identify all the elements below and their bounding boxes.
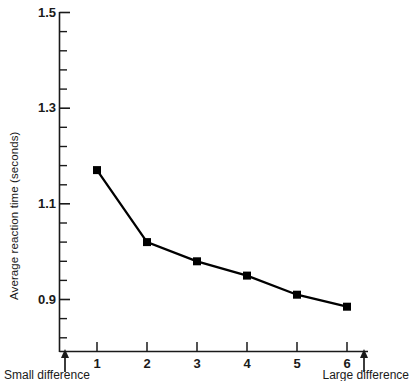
y-major-ticks bbox=[60, 13, 71, 300]
data-point-marker bbox=[93, 166, 101, 174]
data-point-marker bbox=[343, 303, 351, 311]
y-minor-ticks bbox=[60, 32, 68, 338]
data-point-marker bbox=[143, 238, 151, 246]
chart-figure: Average reaction time (seconds) 1.5 1.3 … bbox=[0, 0, 413, 381]
x-major-ticks bbox=[97, 342, 347, 352]
data-line-series-1 bbox=[97, 170, 347, 307]
data-point-marker bbox=[293, 291, 301, 299]
data-markers-series-1 bbox=[93, 166, 351, 311]
up-arrow-icon-left bbox=[61, 349, 69, 372]
data-point-marker bbox=[243, 272, 251, 280]
up-arrow-icon-right bbox=[360, 349, 368, 372]
chart-plot-area bbox=[0, 0, 413, 381]
data-point-marker bbox=[193, 257, 201, 265]
